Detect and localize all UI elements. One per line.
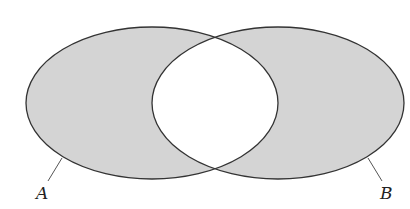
label-b-leader	[368, 158, 382, 181]
set-a-label: A	[34, 183, 48, 203]
set-b-label: B	[379, 183, 393, 203]
label-a-leader	[48, 158, 62, 181]
venn-diagram: A B	[0, 0, 410, 209]
